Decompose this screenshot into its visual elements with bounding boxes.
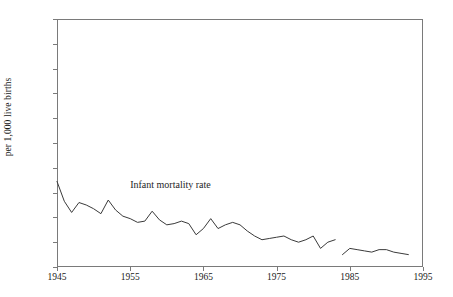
series-infant-mortality-rate <box>57 19 423 267</box>
x-tick-mark <box>203 267 204 271</box>
series-segment-2 <box>342 248 408 254</box>
infant-mortality-chart: per 1,000 live births 010203040506070809… <box>0 0 453 297</box>
x-tick-label: 1955 <box>105 273 155 283</box>
series-annotation-infant-mortality-rate: Infant mortality rate <box>130 179 211 190</box>
y-axis-title: per 1,000 live births <box>3 0 13 242</box>
x-tick-label: 1995 <box>398 273 448 283</box>
x-tick-label: 1965 <box>178 273 228 283</box>
x-tick-mark <box>57 267 58 271</box>
x-tick-label: 1945 <box>32 273 82 283</box>
x-tick-label: 1985 <box>325 273 375 283</box>
x-tick-mark <box>130 267 131 271</box>
x-tick-label: 1975 <box>252 273 302 283</box>
x-tick-mark <box>350 267 351 271</box>
series-segment-1 <box>57 181 335 248</box>
x-tick-mark <box>423 267 424 271</box>
x-tick-mark <box>277 267 278 271</box>
